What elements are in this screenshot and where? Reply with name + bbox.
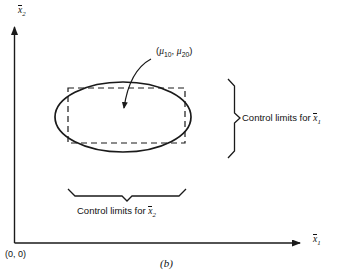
mu1-subscript: 10 bbox=[164, 51, 172, 58]
center-point-label: (μ10, μ20) bbox=[156, 46, 192, 59]
right-brace-label: Control limits for x1 bbox=[242, 113, 321, 126]
y-axis-label-base: x bbox=[18, 6, 22, 16]
bottom-brace-var-sub: 2 bbox=[152, 211, 155, 218]
right-brace bbox=[228, 79, 240, 158]
bottom-brace bbox=[68, 189, 186, 201]
y-axis-label-sub: 2 bbox=[22, 10, 25, 17]
x-axis-label-base: x bbox=[313, 235, 317, 245]
bottom-brace-var-base: x bbox=[148, 207, 152, 217]
right-brace-var-base: x bbox=[313, 114, 317, 124]
control-ellipse bbox=[55, 82, 191, 152]
right-brace-var-sub: 1 bbox=[317, 118, 320, 125]
x-axis-label-sub: 1 bbox=[317, 239, 320, 246]
figure-caption: (b) bbox=[160, 258, 173, 269]
figure-container: x2 x1 (0, 0) (μ10, μ20) Control limits f… bbox=[0, 0, 343, 279]
right-brace-label-text: Control limits for bbox=[242, 112, 313, 123]
y-axis-label: x2 bbox=[18, 5, 26, 18]
center-point-close-paren: ) bbox=[189, 45, 192, 56]
bottom-brace-label-text: Control limits for bbox=[77, 205, 148, 216]
origin-label: (0, 0) bbox=[5, 250, 26, 259]
figure-graphics bbox=[0, 0, 343, 279]
x-axis-label: x1 bbox=[313, 234, 321, 247]
bottom-brace-label: Control limits for x2 bbox=[77, 206, 156, 219]
